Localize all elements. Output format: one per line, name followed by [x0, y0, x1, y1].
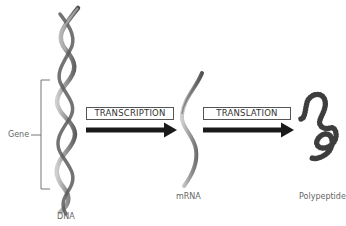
dna-helix-icon: [57, 8, 78, 214]
gene-label: Gene: [8, 130, 29, 139]
gene-bracket: [31, 80, 50, 189]
translation-label-box: TRANSLATION: [203, 107, 291, 120]
transcription-arrow-icon: [86, 123, 177, 138]
transcription-label-box: TRANSCRIPTION: [86, 107, 174, 120]
mrna-label: mRNA: [176, 192, 201, 201]
mrna-strand-icon: [182, 73, 202, 186]
dna-label: DNA: [57, 212, 75, 221]
polypeptide-label: Polypeptide: [299, 192, 346, 201]
polypeptide-chain-icon: [301, 94, 336, 158]
translation-arrow-icon: [203, 123, 294, 138]
